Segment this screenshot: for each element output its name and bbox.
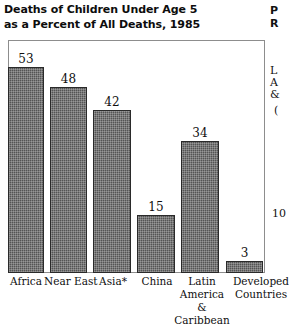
category-label-line: Developed [230,275,289,288]
category-label-developed-countries: Developed Countries [230,275,289,301]
category-label-line: Latin [174,275,230,288]
category-label-line: Caribbean [174,314,230,327]
category-label-line: Africa [2,275,50,288]
bar-value-africa: 53 [2,53,50,66]
category-label-line: Countries [230,288,289,301]
bar-value-latin-america: 34 [175,127,225,140]
bar-asia [93,110,131,273]
category-label-line: America [174,288,230,301]
bleed-fragment: P [270,4,278,17]
bleed-fragment: ( [274,104,278,117]
bar-value-near-east: 48 [44,73,93,86]
bar-latin-america [181,141,219,273]
bar-developed-countries [226,261,263,273]
bleed-fragment: 10 [272,207,286,220]
plot-area: 53 48 42 15 34 3 [8,40,265,273]
category-axis-labels: Africa Near East Asia* China Latin Ameri… [8,275,289,334]
bar-value-china: 15 [131,201,181,214]
bar-near-east [50,87,87,273]
bar-value-developed-countries: 3 [220,247,269,260]
chart-title-line-2: as a Percent of All Deaths, 1985 [4,17,244,32]
bleed-fragment: & [270,88,280,101]
category-label-near-east: Near East [44,275,94,288]
category-label-asia: Asia* [92,275,134,288]
bleed-fragment: R [270,17,278,30]
bleed-fragment: A [270,76,278,89]
bar-china [137,215,175,273]
category-label-line: & [174,301,230,314]
category-label-line: Near East [44,275,94,288]
bar-value-asia: 42 [87,96,137,109]
category-label-africa: Africa [2,275,50,288]
bleed-fragment: L [270,64,277,77]
bar-africa [8,67,44,273]
chart-title: Deaths of Children Under Age 5 as a Perc… [4,2,244,32]
category-label-latin-america-caribbean: Latin America & Caribbean [174,275,230,327]
category-label-line: Asia* [92,275,134,288]
chart-title-line-1: Deaths of Children Under Age 5 [4,2,244,17]
